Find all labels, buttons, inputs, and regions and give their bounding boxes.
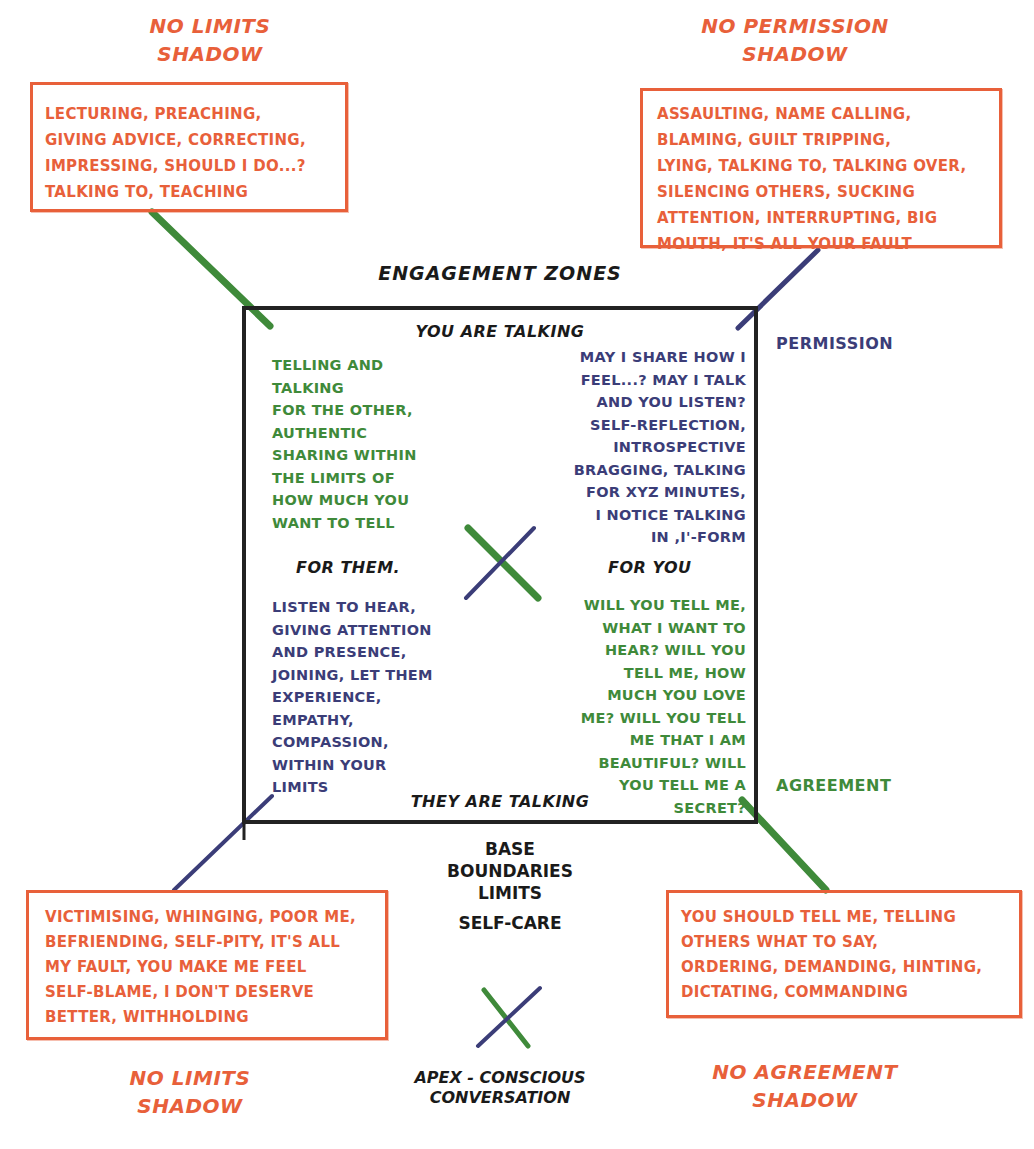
quadrant-line: HOW MUCH YOU [272,489,472,512]
apex-label: APEX - CONSCIOUS CONVERSATION [380,1068,620,1108]
shadow-title-bottom-left: NO LIMITS SHADOW [90,1064,290,1120]
quadrant-line: LISTEN TO HEAR, [272,596,472,619]
title-line: NO LIMITS [110,12,310,40]
quadrant-line: TALKING [272,377,472,400]
title-line: NO PERMISSION [680,12,910,40]
zone-right-label: FOR YOU [608,558,708,577]
title-line: SHADOW [90,1092,290,1120]
title-line: NO LIMITS [90,1064,290,1092]
quadrant-line: WANT TO TELL [272,512,472,535]
quadrant-line: AUTHENTIC [272,422,472,445]
zone-left-label: FOR THEM. [296,558,436,577]
permission-label: PERMISSION [776,334,893,353]
quadrant-line: FEEL...? MAY I TALK [520,369,746,392]
title-line: NO AGREEMENT [690,1058,920,1086]
quadrant-line: WILL YOU TELL ME, [520,594,746,617]
quadrant-line: AND PRESENCE, [272,641,472,664]
shadow-line: BLAMING, GUILT TRIPPING, [657,127,999,153]
quadrant-line: MUCH YOU LOVE [520,684,746,707]
shadow-line: LYING, TALKING TO, TALKING OVER, [657,153,999,179]
shadow-line: MY FAULT, YOU MAKE ME FEEL [45,955,385,980]
apex-line: CONVERSATION [380,1088,620,1108]
quadrant-line: BEAUTIFUL? WILL [520,752,746,775]
quadrant-line: GIVING ATTENTION [272,619,472,642]
quadrant-line: ME? WILL YOU TELL [520,707,746,730]
quadrant-top-left: TELLING AND TALKING FOR THE OTHER, AUTHE… [272,354,472,534]
quadrant-line: THE LIMITS OF [272,467,472,490]
title-line: SHADOW [680,40,910,68]
quadrant-line: WHAT I WANT TO [520,617,746,640]
apex-line: APEX - CONSCIOUS [380,1068,620,1088]
quadrant-line: FOR XYZ MINUTES, [520,481,746,504]
shadow-box-top-right: ASSAULTING, NAME CALLING, BLAMING, GUILT… [640,88,1002,248]
quadrant-line: AND YOU LISTEN? [520,391,746,414]
shadow-line: DICTATING, COMMANDING [681,980,1019,1005]
quadrant-line: EMPATHY, [272,709,472,732]
shadow-line: LECTURING, PREACHING, [45,101,345,127]
base-line: LIMITS [400,882,620,904]
shadow-line: GIVING ADVICE, CORRECTING, [45,127,345,153]
quadrant-top-right: MAY I SHARE HOW I FEEL...? MAY I TALK AN… [520,346,746,549]
self-care-label: SELF-CARE [400,912,620,934]
quadrant-line: HEAR? WILL YOU [520,639,746,662]
shadow-box-top-left: LECTURING, PREACHING, GIVING ADVICE, COR… [30,82,348,212]
shadow-line: ATTENTION, INTERRUPTING, BIG [657,205,999,231]
zone-bottom-label: THEY ARE TALKING [390,792,610,811]
quadrant-line: JOINING, LET THEM [272,664,472,687]
quadrant-line: IN ,I'-FORM [520,526,746,549]
shadow-title-top-right: NO PERMISSION SHADOW [680,12,910,68]
title-line: SHADOW [110,40,310,68]
quadrant-line: ME THAT I AM [520,729,746,752]
quadrant-bottom-left: LISTEN TO HEAR, GIVING ATTENTION AND PRE… [272,596,472,799]
shadow-line: VICTIMISING, WHINGING, POOR ME, [45,905,385,930]
shadow-line: ASSAULTING, NAME CALLING, [657,101,999,127]
base-line: BASE [400,838,620,860]
shadow-line: BEFRIENDING, SELF-PITY, IT'S ALL [45,930,385,955]
diagram-title: ENGAGEMENT ZONES [340,262,660,284]
quadrant-line: SELF-REFLECTION, [520,414,746,437]
shadow-title-top-left: NO LIMITS SHADOW [110,12,310,68]
shadow-line: TALKING TO, TEACHING [45,179,345,205]
base-line: BOUNDARIES [400,860,620,882]
quadrant-line: BRAGGING, TALKING [520,459,746,482]
zone-top-label: YOU ARE TALKING [400,322,600,341]
base-labels: BASE BOUNDARIES LIMITS [400,838,620,904]
shadow-box-bottom-left: VICTIMISING, WHINGING, POOR ME, BEFRIEND… [26,890,388,1040]
quadrant-line: WITHIN YOUR [272,754,472,777]
shadow-line: SELF-BLAME, I DON'T DESERVE [45,980,385,1005]
quadrant-line: FOR THE OTHER, [272,399,472,422]
shadow-line: MOUTH, IT'S ALL YOUR FAULT [657,231,999,257]
quadrant-line: INTROSPECTIVE [520,436,746,459]
shadow-title-bottom-right: NO AGREEMENT SHADOW [690,1058,920,1114]
shadow-line: YOU SHOULD TELL ME, TELLING [681,905,1019,930]
quadrant-bottom-right: WILL YOU TELL ME, WHAT I WANT TO HEAR? W… [520,594,746,819]
quadrant-line: EXPERIENCE, [272,686,472,709]
shadow-line: SILENCING OTHERS, SUCKING [657,179,999,205]
quadrant-line: TELL ME, HOW [520,662,746,685]
quadrant-line: MAY I SHARE HOW I [520,346,746,369]
agreement-label: AGREEMENT [776,776,891,795]
shadow-line: OTHERS WHAT TO SAY, [681,930,1019,955]
title-line: SHADOW [690,1086,920,1114]
shadow-line: BETTER, WITHHOLDING [45,1005,385,1030]
quadrant-line: SHARING WITHIN [272,444,472,467]
quadrant-line: COMPASSION, [272,731,472,754]
shadow-line: ORDERING, DEMANDING, HINTING, [681,955,1019,980]
quadrant-line: TELLING AND [272,354,472,377]
quadrant-line: I NOTICE TALKING [520,504,746,527]
shadow-box-bottom-right: YOU SHOULD TELL ME, TELLING OTHERS WHAT … [666,890,1022,1018]
shadow-line: IMPRESSING, SHOULD I DO...? [45,153,345,179]
